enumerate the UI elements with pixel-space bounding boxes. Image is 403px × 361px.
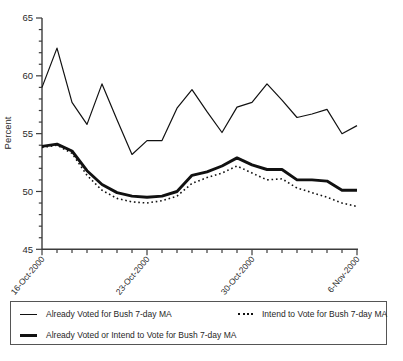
legend-label-already-or-intend: Already Voted or Intend to Vote for Bush… [46, 330, 236, 340]
y-tick-label: 50 [22, 186, 33, 197]
y-tick-label: 65 [22, 12, 33, 23]
line-chart-plot-area: 4550556065Percent16-Oct-200023-Oct-20003… [0, 0, 403, 300]
thin-solid-line-sample-icon [20, 314, 37, 315]
thick-solid-line-sample-icon [20, 334, 37, 337]
legend-item-intend-to-vote: Intend to Vote for Bush 7-day MA [238, 309, 387, 319]
legend-label-already-voted: Already Voted for Bush 7-day MA [46, 309, 172, 319]
series-line-thin-solid [42, 48, 357, 154]
y-tick-label: 45 [22, 244, 33, 255]
y-tick-label: 60 [22, 70, 33, 81]
x-tick-label: 30-Oct-2000 [218, 254, 256, 297]
chart-legend: Already Voted for Bush 7-day MA Intend t… [10, 301, 387, 345]
series-line-dotted [42, 145, 357, 206]
y-axis-label: Percent [2, 116, 13, 149]
y-tick-label: 55 [22, 128, 33, 139]
legend-item-already-or-intend: Already Voted or Intend to Vote for Bush… [20, 330, 236, 340]
x-tick-label: 16-Oct-2000 [8, 254, 46, 297]
x-tick-label: 23-Oct-2000 [113, 254, 151, 297]
legend-item-already-voted: Already Voted for Bush 7-day MA [20, 309, 172, 319]
series-line-thick-solid [42, 144, 357, 197]
legend-label-intend-to-vote: Intend to Vote for Bush 7-day MA [262, 309, 387, 319]
chart-figure: 4550556065Percent16-Oct-200023-Oct-20003… [0, 0, 403, 361]
x-tick-label: 6-Nov-2000 [325, 254, 361, 295]
dotted-line-sample-icon [238, 313, 253, 315]
